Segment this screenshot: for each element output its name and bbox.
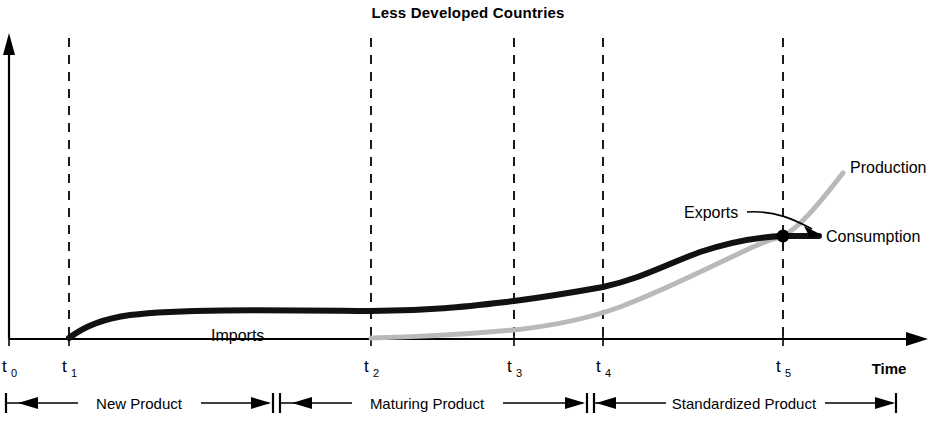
tick-sub-t3: 3	[516, 367, 522, 379]
phase-label-maturing-product: Maturing Product	[370, 395, 485, 412]
bracket-arrow-left-maturing-product	[292, 397, 312, 409]
x-tick-label-t4: t 4	[596, 357, 611, 379]
production-label: Production	[850, 159, 927, 176]
tick-base-t0: t	[2, 357, 7, 376]
phase-label-standardized-product: Standardized Product	[672, 395, 817, 412]
tick-base-t1: t	[62, 357, 67, 376]
tick-base-t3: t	[507, 357, 512, 376]
tick-sub-t2: 2	[373, 367, 379, 379]
chart-container: Less Developed Countries	[0, 0, 936, 421]
phase-bracket-standardized-product: Standardized Product	[594, 393, 896, 413]
bracket-arrow-left-new-product	[18, 397, 38, 409]
phase-label-new-product: New Product	[96, 395, 183, 412]
x-tick-label-t1: t 1	[62, 357, 77, 379]
tick-base-t2: t	[364, 357, 369, 376]
tick-sub-t1: 1	[71, 367, 77, 379]
period-dashed-lines	[69, 38, 783, 336]
bracket-arrow-left-standardized-product	[596, 397, 616, 409]
x-axis-title: Time	[872, 360, 907, 377]
tick-base-t4: t	[596, 357, 601, 376]
consumption-label: Consumption	[826, 228, 920, 245]
tick-sub-t4: 4	[605, 367, 611, 379]
imports-label: Imports	[211, 327, 264, 344]
x-tick-label-t0: t 0	[2, 357, 17, 379]
bracket-arrow-right-maturing-product	[565, 397, 585, 409]
x-tick-label-t3: t 3	[507, 357, 522, 379]
x-tick-labels: t 0 t 1 t 2 t 3 t 4 t 5	[2, 357, 791, 379]
phase-bracket-maturing-product: Maturing Product	[280, 393, 587, 413]
bracket-arrow-right-new-product	[251, 397, 271, 409]
crossing-point-marker	[777, 230, 790, 243]
x-tick-label-t2: t 2	[364, 357, 379, 379]
y-axis	[3, 33, 15, 339]
phase-bracket-new-product: New Product	[6, 393, 273, 413]
exports-label: Exports	[684, 204, 738, 221]
phase-brackets: New Product Maturing Product Sta	[6, 393, 896, 413]
product-life-cycle-chart: Imports Exports Production Consumption t…	[0, 0, 936, 421]
y-axis-arrowhead	[3, 33, 15, 55]
production-curve	[371, 173, 843, 338]
x-tick-label-t5: t 5	[776, 357, 791, 379]
tick-sub-t0: 0	[11, 367, 17, 379]
tick-sub-t5: 5	[785, 367, 791, 379]
consumption-curve	[69, 236, 819, 338]
bracket-arrow-right-standardized-product	[875, 397, 895, 409]
tick-base-t5: t	[776, 357, 781, 376]
x-axis-arrowhead	[906, 332, 928, 346]
